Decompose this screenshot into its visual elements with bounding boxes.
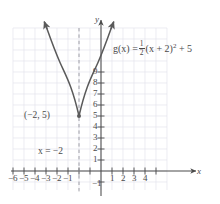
x-tick-label-3: 3 (132, 174, 137, 183)
x-tick-label-2: 2 (121, 174, 126, 183)
graph-figure: −6 −5 −4 −3 −2 −1 1 2 3 4 −1 1 2 3 4 5 6… (0, 0, 220, 204)
y-tick-label-8: 8 (93, 78, 98, 87)
y-tick-label-2: 2 (93, 144, 98, 153)
x-tick-label--5: −5 (19, 174, 29, 183)
vertex-point (77, 114, 81, 118)
equation-fraction: 12 (139, 40, 145, 56)
y-tick-label-4: 4 (93, 122, 98, 131)
equation-label: g(x) =12(x + 2)2 + 5 (113, 40, 192, 56)
fraction-denominator: 2 (139, 49, 145, 57)
y-axis-label: y (95, 15, 99, 24)
y-tick-label--1: −1 (92, 179, 102, 188)
x-tick-label--1: −1 (63, 174, 73, 183)
x-tick-label--3: −3 (41, 174, 51, 183)
equation-prefix: g(x) = (113, 43, 138, 54)
x-tick-label--4: −4 (30, 174, 40, 183)
x-tick-label--2: −2 (52, 174, 62, 183)
axis-of-symmetry-label: x = −2 (38, 147, 63, 157)
equation-exponent: 2 (173, 42, 177, 50)
y-tick-label-1: 1 (93, 155, 98, 164)
equation-tail: + 5 (179, 43, 192, 54)
y-tick-label-9: 9 (93, 67, 98, 76)
x-axis-label: x (197, 167, 201, 176)
x-tick-label-1: 1 (110, 174, 115, 183)
y-tick-label-6: 6 (93, 100, 98, 109)
vertex-label: (−2, 5) (24, 111, 50, 121)
equation-body: (x + 2) (146, 43, 173, 54)
y-tick-label-3: 3 (93, 133, 98, 142)
x-tick-label-4: 4 (143, 174, 148, 183)
x-tick-label--6: −6 (8, 174, 18, 183)
y-tick-label-7: 7 (93, 89, 98, 98)
y-tick-label-5: 5 (93, 111, 98, 120)
